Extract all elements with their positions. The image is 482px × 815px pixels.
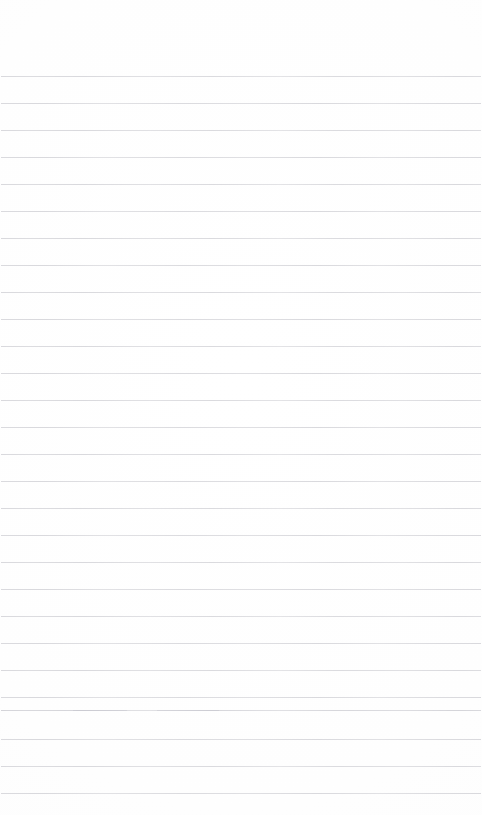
- ruled-line: [1, 400, 481, 401]
- ruled-line: [1, 211, 481, 212]
- ruled-line: [1, 130, 481, 131]
- ruled-line: [1, 238, 481, 239]
- ruled-line: [1, 373, 481, 374]
- ruled-line: [1, 562, 481, 563]
- ruled-line: [1, 508, 481, 509]
- ruled-line: [1, 793, 481, 794]
- ruled-line: [1, 454, 481, 455]
- ruled-line: [1, 346, 481, 347]
- ruled-line: [1, 670, 481, 671]
- ruled-line: [1, 697, 481, 698]
- ruled-line: [1, 427, 481, 428]
- ruled-line: [1, 535, 481, 536]
- ruled-line: [1, 184, 481, 185]
- ink-smudge: [157, 710, 219, 711]
- ink-smudge: [73, 710, 127, 711]
- ruled-line: [1, 157, 481, 158]
- ruled-line: [1, 739, 481, 740]
- ruled-line: [1, 766, 481, 767]
- scanned-page: [0, 0, 482, 815]
- ruled-lines-layer: [0, 0, 482, 815]
- ruled-line-broken: [1, 710, 481, 711]
- ruled-line: [1, 616, 481, 617]
- ruled-line-segment-left: [1, 710, 128, 711]
- ruled-line-segment-right: [152, 710, 482, 711]
- ruled-line: [1, 481, 481, 482]
- top-margin-blank-area: [0, 0, 482, 76]
- ruled-line: [1, 589, 481, 590]
- ruled-line: [1, 292, 481, 293]
- bottom-margin-blank-area: [0, 794, 482, 815]
- ruled-line: [1, 319, 481, 320]
- ruled-line: [1, 643, 481, 644]
- ruled-line: [1, 265, 481, 266]
- ruled-line: [1, 103, 481, 104]
- ruled-line: [1, 76, 481, 77]
- paper-background: [0, 0, 482, 815]
